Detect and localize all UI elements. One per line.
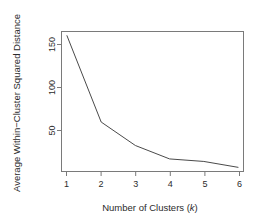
y-tick-label-50: 50 [47,125,57,135]
x-axis-title-main: Number of Clusters ( [102,202,190,213]
x-tick-label-1: 1 [64,179,69,189]
x-axis-title-tail: ) [195,202,198,213]
y-tick-label-150: 150 [47,37,57,52]
figure-background [0,0,255,219]
x-axis-title: Number of Clusters (k) [102,202,198,213]
y-axis-title: Average Within−Cluster Squared Distance [11,14,22,192]
x-tick-label-4: 4 [168,179,173,189]
x-tick-label-5: 5 [202,179,207,189]
x-tick-label-2: 2 [99,179,104,189]
elbow-plot-figure: 50 100 150 1 2 3 4 5 6 Number of Cluster… [0,0,255,219]
x-tick-label-3: 3 [133,179,138,189]
x-tick-label-6: 6 [237,179,242,189]
y-tick-label-100: 100 [47,80,57,95]
